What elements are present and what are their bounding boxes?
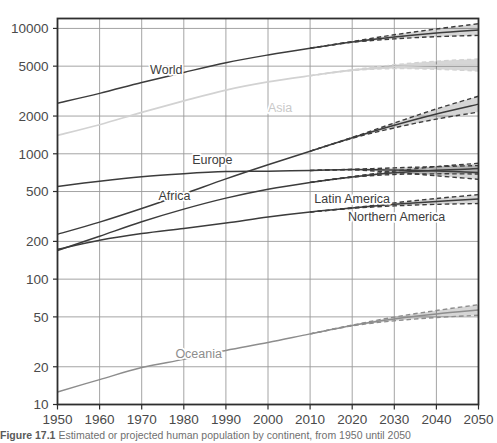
- figure-caption: Figure 17.1 Estimated or projected human…: [0, 429, 497, 443]
- y-tick-label: 500: [26, 184, 49, 199]
- x-tick-label: 2050: [463, 412, 493, 427]
- annotation-label-africa: Africa: [159, 189, 191, 203]
- y-tick-label: 1000: [18, 147, 48, 162]
- x-tick-label: 2040: [421, 412, 451, 427]
- y-tick-label: 10000: [11, 21, 49, 36]
- y-tick-label: 20: [33, 360, 48, 375]
- x-tick-label: 1950: [42, 412, 72, 427]
- caption-number: Figure 17.1: [0, 429, 55, 441]
- x-tick-label: 2030: [379, 412, 409, 427]
- y-tick-label: 2000: [18, 109, 48, 124]
- population-log-chart: 1020501002005001000200050001000019501960…: [0, 0, 497, 443]
- y-tick-label: 100: [26, 272, 49, 287]
- y-tick-label: 5000: [18, 59, 48, 74]
- y-tick-label: 200: [26, 234, 49, 249]
- annotation-label-northern-america: Northern America: [348, 210, 445, 224]
- annotation-label-oceania: Oceania: [175, 347, 222, 361]
- x-tick-label: 2000: [253, 412, 283, 427]
- x-tick-label: 1990: [211, 412, 241, 427]
- annotation-label-latin-america: Latin America: [314, 192, 390, 206]
- annotation-label-asia: Asia: [268, 101, 292, 115]
- y-tick-label: 10: [33, 397, 48, 412]
- x-tick-label: 1960: [85, 412, 115, 427]
- annotation-label-world: World: [150, 63, 182, 77]
- x-tick-label: 1980: [169, 412, 199, 427]
- x-tick-label: 1970: [127, 412, 157, 427]
- x-tick-label: 2010: [295, 412, 325, 427]
- y-tick-label: 50: [33, 310, 48, 325]
- annotation-label-europe: Europe: [192, 153, 232, 167]
- caption-text: Estimated or projected human population …: [58, 429, 411, 441]
- x-tick-label: 2020: [337, 412, 367, 427]
- figure-container: 1020501002005001000200050001000019501960…: [0, 0, 497, 443]
